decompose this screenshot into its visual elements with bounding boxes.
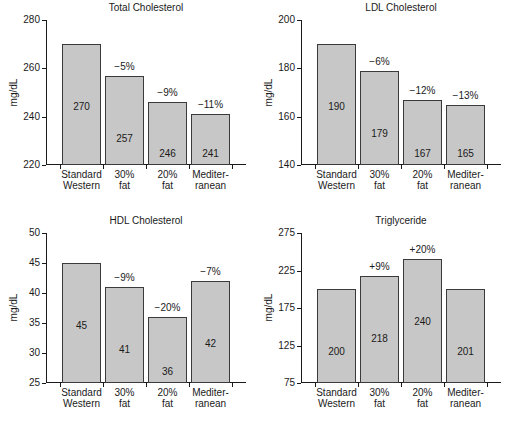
bar-value-label: 45 xyxy=(62,321,101,331)
bar-delta-label: −9% xyxy=(105,273,144,283)
y-tick xyxy=(297,271,301,272)
bar-delta-label: −7% xyxy=(191,267,230,277)
y-tick xyxy=(42,117,46,118)
bar xyxy=(360,71,399,165)
bar-delta-label: −13% xyxy=(446,91,485,101)
x-category-label: Mediter-ranean xyxy=(438,169,493,191)
y-tick xyxy=(42,20,46,21)
bar-delta-label: −20% xyxy=(148,303,187,313)
bar xyxy=(105,287,144,383)
bar-value-label: 246 xyxy=(148,149,187,159)
y-axis-line xyxy=(301,20,302,165)
x-tick xyxy=(232,165,233,169)
plot-area: 2530354045504541−9%36−20%42−7% xyxy=(46,233,246,383)
x-category-label-line: ranean xyxy=(438,180,493,191)
y-axis-line xyxy=(301,233,302,383)
bar-value-label: 270 xyxy=(62,102,101,112)
y-tick xyxy=(297,20,301,21)
bar-value-label: 165 xyxy=(446,149,485,159)
y-tick xyxy=(42,233,46,234)
y-axis-line xyxy=(46,233,47,383)
bar xyxy=(446,289,485,384)
y-axis-line xyxy=(46,20,47,165)
bar xyxy=(105,76,144,165)
x-category-label: Mediter-ranean xyxy=(183,169,238,191)
y-tick-label: 125 xyxy=(278,341,295,351)
x-tick xyxy=(103,165,104,169)
x-category-label-line: Mediter- xyxy=(438,387,493,398)
y-tick-label: 45 xyxy=(29,258,40,268)
y-axis-label: mg/dL xyxy=(263,62,274,122)
y-tick-label: 220 xyxy=(23,160,40,170)
bar-delta-label: −9% xyxy=(148,88,187,98)
bar-value-label: 190 xyxy=(317,102,356,112)
panel-title: Total Cholesterol xyxy=(46,2,246,13)
plot-area: 140160180200190179−6%167−12%165−13% xyxy=(301,20,501,165)
x-category-label: Mediter-ranean xyxy=(438,387,493,409)
x-tick xyxy=(315,165,316,169)
y-tick-label: 50 xyxy=(29,228,40,238)
x-category-label-line: Mediter- xyxy=(438,169,493,180)
y-tick xyxy=(297,346,301,347)
y-tick-label: 260 xyxy=(23,63,40,73)
x-tick xyxy=(444,165,445,169)
y-tick-label: 275 xyxy=(278,228,295,238)
panel-title: LDL Cholesterol xyxy=(301,2,501,13)
x-category-label-line: Mediter- xyxy=(183,169,238,180)
bar xyxy=(317,289,356,383)
y-axis-label: mg/dL xyxy=(8,278,19,338)
bar-value-label: 36 xyxy=(148,367,187,377)
bar-delta-label: −5% xyxy=(105,62,144,72)
panel-triglyceride: Triglyceridemg/dLStandardWestern30%fat20… xyxy=(255,213,509,429)
plot-area: 75125175225275200218+9%240+20%201 xyxy=(301,233,501,383)
y-tick-label: 160 xyxy=(278,112,295,122)
panel-total-cholesterol: Total Cholesterolmg/dLStandardWestern30%… xyxy=(0,0,255,213)
y-tick-label: 140 xyxy=(278,160,295,170)
x-tick xyxy=(146,165,147,169)
x-tick xyxy=(487,383,488,387)
x-tick xyxy=(232,383,233,387)
bar-delta-label: −6% xyxy=(360,57,399,67)
figure-multi-panel-bar-charts: Total Cholesterolmg/dLStandardWestern30%… xyxy=(0,0,509,429)
y-tick-label: 225 xyxy=(278,266,295,276)
bar-value-label: 257 xyxy=(105,134,144,144)
panel-ldl-cholesterol: LDL Cholesterolmg/dLStandardWestern30%fa… xyxy=(255,0,509,213)
x-tick xyxy=(315,383,316,387)
x-tick xyxy=(401,165,402,169)
bar-delta-label: −12% xyxy=(403,86,442,96)
y-tick xyxy=(297,308,301,309)
y-tick xyxy=(42,383,46,384)
bar xyxy=(191,281,230,383)
bar-value-label: 167 xyxy=(403,149,442,159)
panel-title: HDL Cholesterol xyxy=(46,215,246,226)
bar-value-label: 241 xyxy=(191,149,230,159)
bar-delta-label: −11% xyxy=(191,100,230,110)
y-tick-label: 30 xyxy=(29,348,40,358)
plot-area: 220240260280270257−5%246−9%241−11% xyxy=(46,20,246,165)
bar-value-label: 201 xyxy=(446,347,485,357)
bar-delta-label: +20% xyxy=(403,245,442,255)
bar-value-label: 218 xyxy=(360,334,399,344)
x-tick xyxy=(103,383,104,387)
x-category-label-line: ranean xyxy=(438,398,493,409)
y-tick xyxy=(297,383,301,384)
y-tick-label: 280 xyxy=(23,15,40,25)
x-tick xyxy=(358,383,359,387)
x-category-label-line: ranean xyxy=(183,180,238,191)
panel-hdl-cholesterol: HDL Cholesterolmg/dLStandardWestern30%fa… xyxy=(0,213,255,429)
x-tick xyxy=(189,165,190,169)
y-tick xyxy=(297,165,301,166)
y-axis-label: mg/dL xyxy=(263,278,274,338)
y-tick xyxy=(297,233,301,234)
y-tick xyxy=(297,117,301,118)
x-tick xyxy=(444,383,445,387)
x-category-label-line: ranean xyxy=(183,398,238,409)
bar-delta-label: +9% xyxy=(360,262,399,272)
bar-value-label: 179 xyxy=(360,129,399,139)
y-tick-label: 35 xyxy=(29,318,40,328)
x-tick xyxy=(189,383,190,387)
bar-value-label: 41 xyxy=(105,345,144,355)
x-tick xyxy=(60,383,61,387)
y-tick xyxy=(42,263,46,264)
y-tick-label: 25 xyxy=(29,378,40,388)
